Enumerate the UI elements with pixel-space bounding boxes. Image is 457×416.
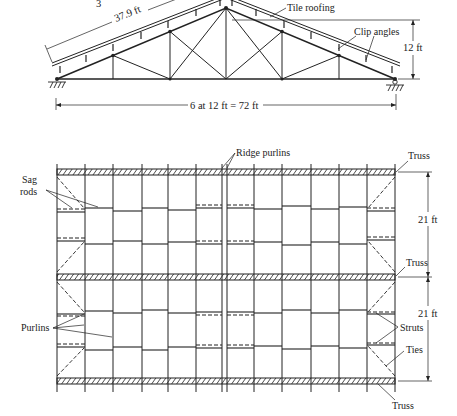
right-support-icon [386, 80, 404, 91]
truss-band-top [57, 169, 395, 175]
truss-label-top: Truss [408, 150, 430, 161]
tile-roofing-label: Tile roofing [287, 2, 335, 13]
purlins-leader-2 [53, 325, 84, 328]
sag-rods-leader-2 [46, 190, 98, 207]
sag-rods-bay-2 [57, 310, 395, 350]
purlins-leader-3 [53, 328, 112, 337]
sag-rods-label-line2: rods [20, 186, 37, 197]
purlins-label: Purlins [21, 322, 49, 333]
slope-length-label: 37.9 ft [113, 3, 143, 23]
truss-band-bottom [57, 378, 395, 384]
roof-plan: Ridge purlins Sag rods Purlins Truss Tru… [20, 147, 438, 411]
truss-leader-top [396, 161, 408, 172]
span-label: 6 at 12 ft = 72 ft [190, 100, 258, 111]
truss-label-middle: Truss [406, 257, 428, 268]
struts-label: Struts [400, 322, 423, 333]
truss-leader-bottom [378, 384, 395, 400]
clip-angles-leader-2 [366, 36, 374, 60]
partial-top-label: 3 [96, 0, 101, 9]
truss-leader-middle [396, 267, 405, 276]
left-support-icon [48, 82, 66, 88]
struts-bay-2 [57, 312, 395, 345]
bay-1-label: 21 ft [418, 214, 438, 225]
sag-rods-label-line1: Sag [22, 174, 37, 185]
ties-bay-2 [57, 282, 395, 376]
rise-label: 12 ft [403, 42, 423, 53]
ties-label: Ties [406, 344, 423, 355]
sag-rods-bay-1 [57, 206, 395, 245]
roof-truss-diagram: 37.9 ft 3 Tile roofing Clip angles 12 ft [0, 0, 457, 416]
bay-2-label: 21 ft [418, 308, 438, 319]
truss-verticals [113, 8, 339, 79]
ties-bay-1 [57, 177, 395, 272]
sag-rods-leader-1 [46, 190, 72, 208]
truss-label-bottom: Truss [392, 400, 414, 411]
truss-band-middle [57, 274, 395, 280]
clip-angles-label: Clip angles [354, 26, 399, 37]
truss-elevation: 37.9 ft 3 Tile roofing Clip angles 12 ft [45, 0, 423, 111]
ridge-purlins-label: Ridge purlins [236, 147, 290, 158]
struts-bay-1 [57, 205, 395, 241]
